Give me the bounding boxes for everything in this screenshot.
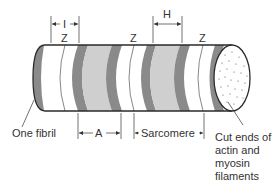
myofibril-diagram: Z Z Z I H A Sarcomere On xyxy=(0,0,279,189)
z-label-3: Z xyxy=(199,32,206,44)
a-band-label: A xyxy=(95,127,103,139)
cut-ends-label-line4: filaments xyxy=(215,170,260,182)
fibril-cylinder xyxy=(30,44,240,114)
h-zone-bracket xyxy=(153,16,182,43)
cut-ends-label-line1: Cut ends of xyxy=(215,131,272,143)
h-zone-label: H xyxy=(163,8,171,20)
z-label-1: Z xyxy=(61,32,68,44)
one-fibril-leader-line xyxy=(22,100,34,127)
cut-end-face xyxy=(214,45,250,111)
cut-ends-label-line2: actin and xyxy=(215,144,260,156)
z-label-2: Z xyxy=(130,32,137,44)
i-band-label: I xyxy=(63,18,66,30)
one-fibril-label: One fibril xyxy=(12,127,56,139)
sarcomere-label: Sarcomere xyxy=(141,127,195,139)
cut-ends-label-line3: myosin xyxy=(215,157,250,169)
